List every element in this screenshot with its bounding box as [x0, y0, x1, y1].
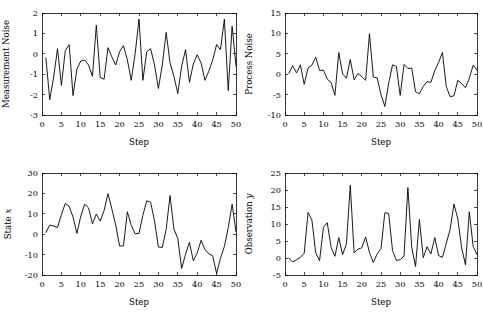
x-tick-label: 45: [211, 279, 221, 289]
x-tick-label: 50: [231, 119, 241, 129]
x-tick-label: 45: [453, 119, 463, 129]
x-tick-label: 25: [376, 279, 386, 289]
axes-frame: [42, 13, 236, 115]
y-tick-label: 0: [276, 253, 281, 263]
x-tick-label: 50: [231, 279, 241, 289]
y-tick-label: -10: [25, 250, 38, 260]
x-tick-label: 0: [282, 119, 287, 129]
y-axis-title: Process Noise: [244, 33, 254, 94]
y-tick-label: 0: [276, 69, 281, 79]
subplot-measurement-noise: 05101520253035404550-3-2-1012StepMeasure…: [0, 0, 242, 161]
y-tick-label: 30: [28, 168, 38, 178]
y-tick-label: 15: [271, 202, 281, 212]
x-tick-label: 10: [76, 119, 86, 129]
x-tick-label: 5: [302, 279, 307, 289]
x-tick-label: 15: [337, 119, 347, 129]
x-tick-label: 40: [433, 119, 443, 129]
y-tick-label: 2: [33, 8, 38, 18]
x-axis-title: Step: [129, 137, 149, 147]
subplot-process-noise: 05101520253035404550-10-5051015StepProce…: [241, 0, 483, 161]
x-tick-label: 35: [173, 119, 183, 129]
x-tick-label: 0: [282, 279, 287, 289]
axes-frame: [285, 13, 477, 115]
x-tick-label: 20: [357, 119, 367, 129]
plot-canvas-state-x: 05101520253035404550-20-100102030StepSta…: [0, 161, 242, 322]
plot-canvas-measurement-noise: 05101520253035404550-3-2-1012StepMeasure…: [0, 0, 242, 161]
x-tick-label: 35: [414, 279, 424, 289]
x-tick-label: 10: [76, 279, 86, 289]
x-tick-label: 35: [173, 279, 183, 289]
x-axis-title: Step: [371, 137, 391, 147]
y-tick-label: 10: [271, 219, 281, 229]
x-tick-label: 50: [472, 119, 482, 129]
y-tick-label: 1: [33, 28, 38, 38]
axes-frame: [42, 173, 236, 275]
x-tick-label: 50: [472, 279, 482, 289]
y-axis-title: Measurement Noise: [1, 20, 11, 108]
y-tick-label: -5: [273, 270, 281, 280]
x-axis-title: Step: [371, 297, 391, 307]
x-axis-title: Step: [129, 297, 149, 307]
x-tick-label: 30: [395, 279, 405, 289]
x-tick-label: 20: [114, 279, 124, 289]
x-tick-label: 10: [318, 279, 328, 289]
x-tick-label: 35: [414, 119, 424, 129]
y-tick-label: 20: [271, 185, 281, 195]
y-tick-label: 10: [28, 209, 38, 219]
y-axis-title: State x: [3, 209, 13, 240]
data-series-process-noise: [289, 34, 477, 107]
x-tick-label: 5: [59, 279, 64, 289]
x-tick-label: 30: [395, 119, 405, 129]
axes-frame: [285, 173, 477, 275]
x-tick-label: 45: [453, 279, 463, 289]
x-tick-label: 15: [95, 119, 105, 129]
x-tick-label: 45: [211, 119, 221, 129]
data-series-state-x: [46, 194, 236, 274]
x-tick-label: 20: [114, 119, 124, 129]
y-tick-label: 15: [271, 8, 281, 18]
data-series-observation-y: [289, 185, 477, 266]
figure-container: 05101520253035404550-3-2-1012StepMeasure…: [0, 0, 483, 322]
x-tick-label: 40: [192, 279, 202, 289]
x-tick-label: 0: [39, 279, 44, 289]
y-tick-label: 10: [271, 28, 281, 38]
y-tick-label: 5: [276, 49, 281, 59]
subplot-observation-y: 05101520253035404550-50510152025StepObse…: [241, 161, 483, 322]
subplot-state-x: 05101520253035404550-20-100102030StepSta…: [0, 161, 242, 322]
y-tick-label: -3: [30, 110, 38, 120]
y-tick-label: -1: [30, 69, 38, 79]
plot-canvas-observation-y: 05101520253035404550-50510152025StepObse…: [241, 161, 483, 322]
x-tick-label: 15: [95, 279, 105, 289]
x-tick-label: 25: [376, 119, 386, 129]
y-tick-label: 0: [33, 229, 38, 239]
y-tick-label: 20: [28, 188, 38, 198]
plot-canvas-process-noise: 05101520253035404550-10-5051015StepProce…: [241, 0, 483, 161]
x-tick-label: 25: [134, 279, 144, 289]
y-tick-label: -20: [25, 270, 38, 280]
x-tick-label: 30: [153, 119, 163, 129]
x-tick-label: 0: [39, 119, 44, 129]
x-tick-label: 30: [153, 279, 163, 289]
x-tick-label: 40: [192, 119, 202, 129]
x-tick-label: 5: [302, 119, 307, 129]
x-tick-label: 10: [318, 119, 328, 129]
x-tick-label: 20: [357, 279, 367, 289]
y-tick-label: -10: [268, 110, 281, 120]
y-tick-label: 25: [271, 168, 281, 178]
x-tick-label: 25: [134, 119, 144, 129]
y-tick-label: -2: [30, 90, 38, 100]
y-tick-label: -5: [273, 90, 281, 100]
data-series-measurement-noise: [46, 19, 236, 100]
x-tick-label: 5: [59, 119, 64, 129]
x-tick-label: 40: [433, 279, 443, 289]
y-axis-title: Observation y: [244, 194, 254, 255]
x-tick-label: 15: [337, 279, 347, 289]
y-tick-label: 5: [276, 236, 281, 246]
y-tick-label: 0: [33, 49, 38, 59]
